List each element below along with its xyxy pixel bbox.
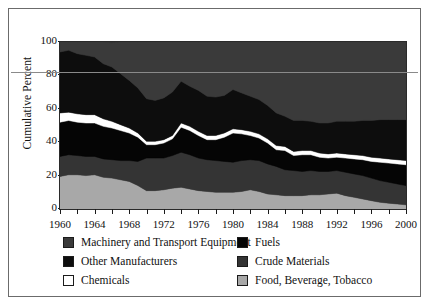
y-tick-label: 0 <box>27 202 57 213</box>
x-tick-mark <box>233 209 234 214</box>
chart-legend: Machinery and Transport EquipmentOther M… <box>9 231 420 296</box>
legend-item-label: Other Manufacturers <box>81 256 177 268</box>
y-axis-tick-labels: 100806040200 <box>25 9 57 222</box>
legend-item[interactable]: Food, Beverage, Tobacco <box>237 271 372 290</box>
figure-container: Cumulative Percent 100806040200 19601964… <box>8 8 421 297</box>
legend-separator <box>11 72 418 73</box>
y-tick-label: 20 <box>27 169 57 180</box>
x-axis-tick-labels: 1960196419681972197619801984198819921996… <box>59 209 407 231</box>
y-tick-label: 40 <box>27 135 57 146</box>
x-tick-mark <box>406 209 407 214</box>
legend-item-label: Chemicals <box>81 275 130 287</box>
legend-item-label: Food, Beverage, Tobacco <box>255 275 372 287</box>
x-tick-mark <box>302 209 303 214</box>
legend-item-label: Machinery and Transport Equipment <box>81 237 251 249</box>
x-tick-label: 1984 <box>257 218 279 230</box>
x-tick-mark <box>250 209 251 214</box>
legend-item[interactable]: Fuels <box>237 233 280 252</box>
legend-swatch <box>63 237 74 248</box>
stacked-area-plot <box>59 41 407 210</box>
x-tick-mark <box>371 209 372 214</box>
x-tick-mark <box>198 209 199 214</box>
legend-swatch <box>63 256 74 267</box>
x-tick-mark <box>216 209 217 214</box>
x-tick-label: 1972 <box>153 218 175 230</box>
x-tick-mark <box>60 209 61 214</box>
x-tick-mark <box>320 209 321 214</box>
stacked-area-svg <box>60 42 406 209</box>
legend-item-label: Fuels <box>255 237 280 249</box>
legend-swatch <box>237 256 248 267</box>
x-tick-label: 1996 <box>360 218 382 230</box>
x-tick-label: 1988 <box>291 218 313 230</box>
x-tick-mark <box>389 209 390 214</box>
x-tick-mark <box>285 209 286 214</box>
x-tick-mark <box>268 209 269 214</box>
x-tick-label: 1964 <box>84 218 106 230</box>
x-tick-mark <box>337 209 338 214</box>
x-tick-mark <box>181 209 182 214</box>
legend-swatch <box>63 275 74 286</box>
x-tick-label: 1992 <box>326 218 348 230</box>
y-tick-label: 60 <box>27 102 57 113</box>
legend-swatch <box>237 275 248 286</box>
x-tick-mark <box>112 209 113 214</box>
legend-item[interactable]: Crude Materials <box>237 252 329 271</box>
x-tick-mark <box>77 209 78 214</box>
y-tick-label: 80 <box>27 68 57 79</box>
x-tick-label: 1976 <box>187 218 209 230</box>
x-tick-mark <box>147 209 148 214</box>
legend-item[interactable]: Chemicals <box>63 271 130 290</box>
x-tick-mark <box>129 209 130 214</box>
x-tick-label: 1968 <box>118 218 140 230</box>
legend-swatch <box>237 237 248 248</box>
legend-item[interactable]: Machinery and Transport Equipment <box>63 233 251 252</box>
x-tick-mark <box>354 209 355 214</box>
x-tick-label: 2000 <box>395 218 417 230</box>
x-tick-mark <box>164 209 165 214</box>
legend-item-label: Crude Materials <box>255 256 329 268</box>
x-tick-label: 1960 <box>49 218 71 230</box>
x-tick-mark <box>95 209 96 214</box>
legend-item[interactable]: Other Manufacturers <box>63 252 177 271</box>
chart-area: Cumulative Percent 100806040200 19601964… <box>9 9 420 222</box>
y-tick-label: 100 <box>27 35 57 46</box>
x-tick-label: 1980 <box>222 218 244 230</box>
